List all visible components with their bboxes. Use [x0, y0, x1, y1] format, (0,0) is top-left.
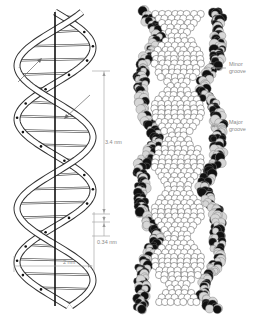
ribbon-helix-model: [0, 0, 261, 320]
space-filling-model: [133, 5, 228, 314]
pitch-label: 3.4 nm: [105, 139, 122, 146]
major-groove-label: Major groove: [229, 119, 255, 132]
diameter-label: 2 nm: [63, 259, 75, 266]
rise-label: 0.34 nm: [97, 239, 117, 246]
minor-groove-label: Minor groove: [229, 61, 255, 74]
dna-diagram: 3.4 nm 0.34 nm 2 nm Minor groove Major g…: [0, 0, 261, 320]
